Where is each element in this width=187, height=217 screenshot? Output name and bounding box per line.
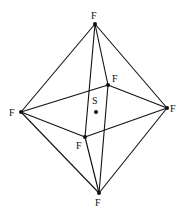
fluorine-front-label: F bbox=[76, 140, 82, 151]
sulfur-central-dot bbox=[94, 110, 98, 114]
fluorine-top-dot bbox=[93, 22, 97, 26]
octahedral-molecule-diagram: FFFFFFS bbox=[0, 0, 187, 217]
fluorine-right-label: F bbox=[170, 103, 176, 114]
fluorine-left-dot bbox=[19, 110, 23, 114]
edge-bottom-left bbox=[21, 112, 99, 193]
fluorine-bottom-dot bbox=[97, 191, 101, 195]
fluorine-front-dot bbox=[83, 135, 87, 139]
edge-bottom-right bbox=[99, 108, 167, 193]
edge-front-left bbox=[21, 112, 85, 137]
edge-top-front bbox=[85, 24, 95, 137]
atom-labels: FFFFFFS bbox=[9, 10, 176, 208]
edge-bottom-back bbox=[99, 85, 108, 193]
atoms bbox=[19, 22, 169, 195]
fluorine-right-dot bbox=[165, 106, 169, 110]
edge-bottom-front bbox=[85, 137, 99, 193]
fluorine-back-label: F bbox=[112, 73, 118, 84]
bond-edges bbox=[21, 24, 167, 193]
fluorine-left-label: F bbox=[9, 107, 15, 118]
edge-top-left bbox=[21, 24, 95, 112]
edge-back-right bbox=[108, 85, 167, 108]
edge-top-right bbox=[95, 24, 167, 108]
fluorine-bottom-label: F bbox=[95, 197, 101, 208]
fluorine-top-label: F bbox=[91, 10, 97, 21]
sulfur-central-label: S bbox=[92, 95, 98, 106]
fluorine-back-dot bbox=[106, 83, 110, 87]
edge-top-back bbox=[95, 24, 108, 85]
